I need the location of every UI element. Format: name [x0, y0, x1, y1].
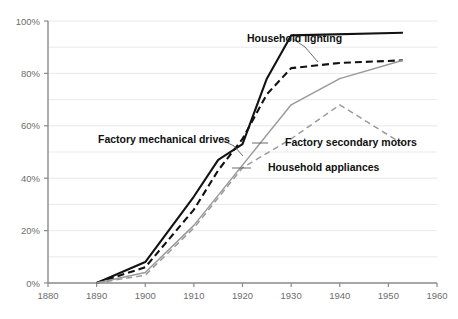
x-tick-labels: 188018901900191019201930194019501960: [37, 290, 447, 301]
y-tick-labels: 0%20%40%60%80%100%: [16, 16, 41, 289]
y-tick-label-40%: 40%: [21, 173, 41, 184]
series-label-factory-mechanical-drives: Factory mechanical drives: [98, 133, 230, 145]
x-tick-label-1880: 1880: [37, 290, 58, 301]
y-tick-label-20%: 20%: [21, 225, 41, 236]
y-tick-label-60%: 60%: [21, 120, 41, 131]
x-tick-label-1900: 1900: [135, 290, 156, 301]
x-tick-label-1930: 1930: [281, 290, 302, 301]
x-tick-label-1940: 1940: [329, 290, 350, 301]
label-leader-lines: [222, 39, 318, 168]
x-tick-label-1920: 1920: [232, 290, 253, 301]
series-line-household-appliances: [97, 105, 403, 283]
x-tick-label-1910: 1910: [183, 290, 204, 301]
y-tick-label-80%: 80%: [21, 68, 41, 79]
series-lines: [97, 33, 403, 283]
chart-container: 0%20%40%60%80%100% 188018901900191019201…: [0, 0, 458, 319]
series-label-household-lighting: Household lighting: [247, 32, 342, 44]
line-chart: 0%20%40%60%80%100% 188018901900191019201…: [0, 0, 458, 319]
x-tick-label-1890: 1890: [86, 290, 107, 301]
series-label-household-appliances: Household appliances: [268, 161, 380, 173]
series-label-factory-secondary-motors: Factory secondary motors: [285, 136, 417, 148]
series-line-household-lighting: [97, 33, 403, 283]
y-tick-label-0%: 0%: [26, 278, 40, 289]
x-tick-label-1950: 1950: [378, 290, 399, 301]
x-tick-label-1960: 1960: [426, 290, 447, 301]
y-tick-label-100%: 100%: [16, 16, 41, 27]
